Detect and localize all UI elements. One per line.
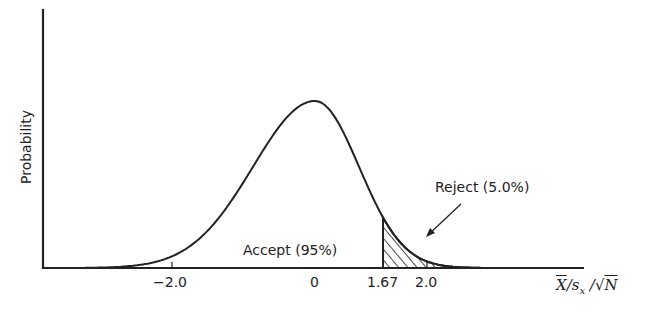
x-tick-label-167: 1.67 [367, 274, 398, 290]
reject-arrow [428, 204, 461, 235]
x-tick-label-2: 2.0 [415, 274, 437, 290]
reject-region [383, 217, 545, 268]
x-tick-label-0: 0 [310, 274, 319, 290]
x-axis-label: X/sx /√N [556, 276, 618, 296]
accept-label: Accept (95%) [243, 242, 337, 258]
normal-curve-chart [0, 0, 648, 325]
x-tick-label-neg2: −2.0 [153, 274, 187, 290]
reject-label: Reject (5.0%) [435, 179, 529, 195]
y-axis-label: Probability [18, 110, 34, 184]
